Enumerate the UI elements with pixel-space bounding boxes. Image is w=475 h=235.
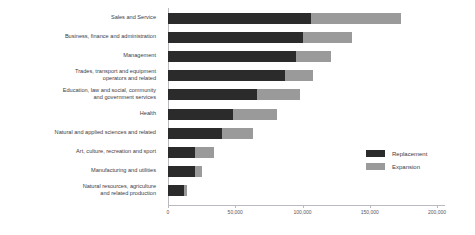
bar-segment-replacement <box>168 70 285 81</box>
x-axis-tick <box>370 205 371 208</box>
category-label: Manufacturing and utilities <box>0 167 156 174</box>
bar-segment-replacement <box>168 51 296 62</box>
bar-segment-expansion <box>195 147 214 158</box>
category-label: Trades, transport and equipment operator… <box>0 68 156 82</box>
bar-segment-replacement <box>168 166 195 177</box>
x-axis-tick-label: 150,000 <box>361 209 379 215</box>
bar-row <box>168 181 437 201</box>
legend-item[interactable]: Expansion <box>366 160 427 173</box>
x-axis-tick <box>437 205 438 208</box>
x-axis-tick-label: 100,000 <box>293 209 311 215</box>
bar-segment-expansion <box>184 185 187 196</box>
x-axis-tick-label: 50,000 <box>228 209 243 215</box>
bar-segment-replacement <box>168 128 222 139</box>
category-label: Natural and applied sciences and related <box>0 129 156 136</box>
x-axis-tick <box>235 205 236 208</box>
bar-row <box>168 8 437 28</box>
bar-segment-expansion <box>222 128 253 139</box>
category-label: Sales and Service <box>0 14 156 21</box>
bar-segment-expansion <box>233 109 277 120</box>
legend-label: Replacement <box>392 151 427 157</box>
bar-segment-replacement <box>168 147 195 158</box>
legend-swatch <box>366 150 385 157</box>
bar-segment-replacement <box>168 13 311 24</box>
x-axis-tick <box>168 205 169 208</box>
bar-segment-expansion <box>303 32 353 43</box>
stacked-bar-chart: Sales and ServiceBusiness, finance and a… <box>0 0 475 235</box>
bar-segment-expansion <box>195 166 202 177</box>
x-axis-line <box>168 205 445 206</box>
legend-item[interactable]: Replacement <box>366 147 427 160</box>
legend-swatch <box>366 163 385 170</box>
category-label: Health <box>0 110 156 117</box>
category-label: Management <box>0 52 156 59</box>
category-label: Education, law and social, community and… <box>0 87 156 101</box>
bar-row <box>168 27 437 47</box>
x-axis-tick-label: 200,000 <box>428 209 446 215</box>
x-axis-tick-label: 0 <box>167 209 170 215</box>
bar-segment-replacement <box>168 89 257 100</box>
bar-segment-expansion <box>296 51 331 62</box>
bar-row <box>168 66 437 86</box>
bar-segment-expansion <box>285 70 313 81</box>
bar-row <box>168 85 437 105</box>
category-label: Natural resources, agriculture and relat… <box>0 183 156 197</box>
x-axis-tick <box>303 205 304 208</box>
bar-segment-replacement <box>168 32 303 43</box>
category-label: Business, finance and administration <box>0 33 156 40</box>
bar-segment-expansion <box>257 89 300 100</box>
legend-label: Expansion <box>392 164 420 170</box>
bar-segment-replacement <box>168 109 233 120</box>
chart-legend: ReplacementExpansion <box>366 147 427 173</box>
bar-segment-replacement <box>168 185 184 196</box>
bar-segment-expansion <box>311 13 401 24</box>
category-label: Art, culture, recreation and sport <box>0 148 156 155</box>
bar-row <box>168 123 437 143</box>
bar-row <box>168 46 437 66</box>
category-labels: Sales and ServiceBusiness, finance and a… <box>0 8 162 198</box>
bar-row <box>168 104 437 124</box>
